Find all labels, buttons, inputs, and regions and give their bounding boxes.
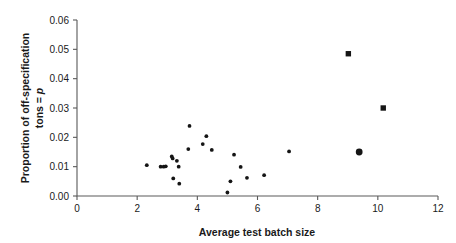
data-point (356, 149, 363, 156)
x-tick-label: 4 (195, 203, 201, 214)
data-point (201, 142, 205, 146)
x-tick-label: 2 (134, 203, 140, 214)
y-axis-title-p-symbol: p (33, 87, 45, 95)
y-tick-label: 0.00 (50, 191, 70, 202)
x-axis-title: Average test batch size (199, 226, 315, 238)
data-point (229, 179, 233, 183)
y-tick-label: 0.05 (50, 44, 70, 55)
x-tick-labels: 024681012 (74, 203, 444, 214)
data-point (177, 182, 181, 186)
data-point (188, 124, 192, 128)
data-point (210, 148, 214, 152)
data-point (175, 159, 179, 163)
y-tick-label: 0.06 (50, 15, 70, 26)
x-tick-label: 6 (255, 203, 261, 214)
data-point (177, 165, 181, 169)
data-point (346, 51, 351, 56)
y-axis-title-line2: tons = p (33, 87, 45, 128)
plot-canvas: 0.000.010.020.030.040.050.06 024681012 A… (0, 0, 456, 243)
y-tick-label: 0.01 (50, 161, 70, 172)
x-tick-label: 10 (372, 203, 384, 214)
x-tick-label: 12 (432, 203, 444, 214)
data-point (381, 105, 386, 110)
y-tick-label: 0.02 (50, 132, 70, 143)
data-point (245, 176, 249, 180)
y-tick-label: 0.04 (50, 73, 70, 84)
data-point (262, 173, 266, 177)
data-point (164, 164, 168, 168)
data-point (145, 163, 149, 167)
data-point (204, 134, 208, 138)
y-tick-labels: 0.000.010.020.030.040.050.06 (50, 15, 70, 202)
data-point (287, 150, 291, 154)
data-point (232, 153, 236, 157)
y-axis-title: Proportion of off-specification tons = p (19, 33, 45, 184)
data-point (171, 157, 175, 161)
data-point (239, 165, 243, 169)
data-point (171, 177, 175, 181)
x-tick-label: 8 (315, 203, 321, 214)
y-axis-title-line2-prefix: tons = (33, 94, 45, 128)
x-tick-label: 0 (74, 203, 80, 214)
y-axis-title-line1: Proportion of off-specification (19, 33, 31, 184)
y-tick-label: 0.03 (50, 103, 70, 114)
data-point (186, 147, 190, 151)
data-point (226, 191, 230, 195)
data-points-group (145, 51, 386, 194)
scatter-plot-figure: 0.000.010.020.030.040.050.06 024681012 A… (0, 0, 456, 243)
